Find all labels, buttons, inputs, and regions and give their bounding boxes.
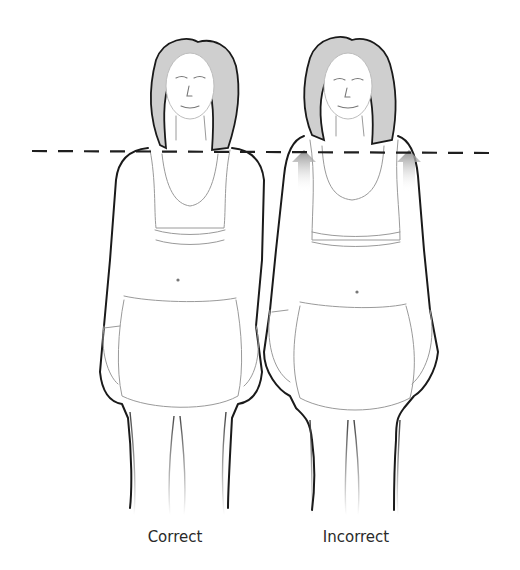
figure-correct: [100, 39, 264, 515]
figure-incorrect: [264, 37, 438, 515]
face-correct: [166, 53, 214, 119]
top-incorrect: [310, 140, 400, 240]
top-correct: [150, 150, 230, 228]
body-outline-incorrect: [264, 136, 438, 510]
face-incorrect: [324, 53, 372, 119]
label-correct: Correct: [148, 528, 203, 546]
shoulder-level-guide-line: [32, 151, 492, 153]
label-incorrect: Incorrect: [323, 528, 389, 546]
body-outline-correct: [100, 148, 264, 508]
posture-illustration: [0, 0, 520, 570]
